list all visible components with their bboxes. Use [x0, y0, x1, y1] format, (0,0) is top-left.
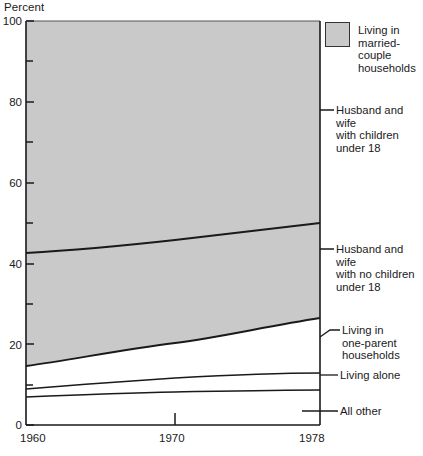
boundary-living-alone-bottom: [26, 390, 320, 397]
legend-swatch-married-couple: [325, 22, 350, 47]
boundary-one-parent-households-bottom: [26, 373, 320, 389]
chart-footnote: [128, 448, 423, 456]
legend-label-living-alone: Living alone: [340, 369, 423, 382]
legend-label-married-couple: Living in married-couple households: [358, 24, 423, 74]
area-married-couple-households: [26, 21, 320, 366]
leader-line-one-parent: [320, 330, 340, 337]
legend-label-all-other: All other: [340, 405, 423, 418]
legend-label-one-parent: Living in one-parent households: [342, 324, 423, 362]
chart-stage: Percent 100 80 60 40 20 0 1960 1970 1978: [0, 0, 423, 456]
legend-label-no-children: Husband and wife with no children under …: [336, 243, 423, 293]
legend-label-with-children: Husband and wife with children under 18: [336, 104, 423, 154]
